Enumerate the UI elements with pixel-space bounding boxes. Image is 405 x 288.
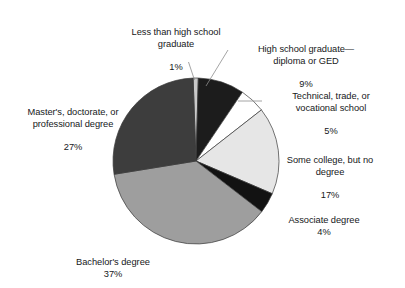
slice-label-line2: professional degree	[2, 119, 144, 130]
slice-label-line1: Associate degree	[288, 215, 359, 225]
slice-label-line1: Less than high school	[132, 27, 221, 37]
slice-label-some-college: Some college, but no degree 17%	[262, 144, 398, 212]
slice-percent: 1%	[104, 62, 248, 73]
slice-label-line1: High school graduate—	[258, 44, 354, 54]
slice-label-less-than-high-school: Less than high school graduate 1%	[104, 16, 248, 84]
slice-label-line2: degree	[262, 167, 398, 178]
slice-label-technical-trade-vocational: Technical, trade, or vocational school 5…	[264, 80, 398, 148]
slice-label-line1: Technical, trade, or	[292, 91, 370, 101]
slice-percent: 5%	[264, 126, 398, 137]
slice-percent: 27%	[2, 142, 144, 153]
slice-label-associate-degree: Associate degree 4%	[250, 204, 398, 250]
slice-label-line2: diploma or GED	[230, 56, 382, 67]
slice-label-line1: Some college, but no	[287, 155, 373, 165]
pie-chart-figure: Less than high school graduate 1% High s…	[0, 0, 405, 288]
slice-percent: 37%	[38, 269, 188, 280]
slice-label-bachelors-degree: Bachelor's degree 37%	[38, 246, 188, 288]
slice-percent: 17%	[262, 190, 398, 201]
slice-label-masters-doctorate: Master's, doctorate, or professional deg…	[2, 96, 144, 164]
slice-label-line1: Master's, doctorate, or	[27, 107, 118, 117]
slice-label-line2: graduate	[104, 39, 248, 50]
slice-percent: 4%	[250, 227, 398, 238]
slice-label-line2: vocational school	[264, 103, 398, 114]
slice-label-line1: Bachelor's degree	[76, 257, 150, 267]
